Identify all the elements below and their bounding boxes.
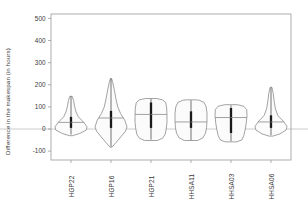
y-tick-label: 0 <box>42 125 46 132</box>
y-tick-label: 200 <box>35 81 46 88</box>
y-tick-label: 400 <box>35 37 46 44</box>
y-tick-label: -100 <box>33 147 46 154</box>
x-tick-label-HGP16: HGP16 <box>108 165 115 209</box>
violin-HHSA11 <box>175 100 207 141</box>
y-tick-label: 300 <box>35 59 46 66</box>
x-tick-label-HHSA11: HHSA11 <box>188 165 195 209</box>
violin-HHSA03 <box>215 105 247 142</box>
x-tick-label-HHSA06: HHSA06 <box>268 165 275 209</box>
y-tick-label: 500 <box>35 15 46 22</box>
chart-root: -1000100200300400500 Difference in the m… <box>0 0 308 209</box>
violin-HGP21 <box>135 99 167 141</box>
x-tick-label-HGP21: HGP21 <box>148 165 155 209</box>
x-tick-label-HHSA03: HHSA03 <box>228 165 235 209</box>
y-tick-label: 100 <box>35 103 46 110</box>
x-tick-label-HGP22: HGP22 <box>68 165 75 209</box>
